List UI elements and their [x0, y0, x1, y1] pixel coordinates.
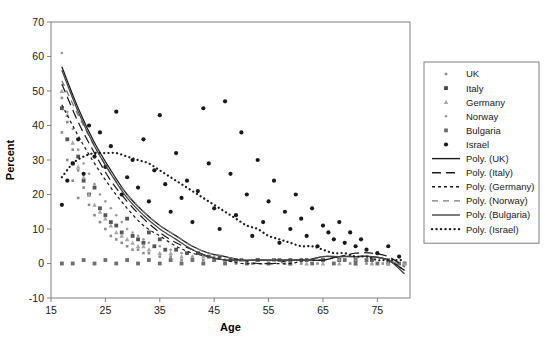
- data-point: [169, 258, 173, 262]
- data-point: [131, 234, 135, 238]
- data-point: [387, 262, 390, 265]
- y-tick-label: 40: [32, 119, 44, 131]
- x-axis-title: Age: [220, 321, 241, 333]
- data-point: [348, 230, 352, 234]
- x-tick-label: 55: [263, 304, 275, 316]
- data-point: [179, 254, 184, 258]
- data-point: [343, 241, 347, 245]
- data-point: [125, 237, 130, 241]
- data-point: [326, 230, 330, 234]
- data-point: [125, 217, 129, 221]
- data-point: [82, 162, 85, 165]
- data-point: [66, 110, 69, 113]
- data-point: [180, 262, 184, 266]
- data-point: [148, 252, 151, 255]
- axis-layer: -1001020304050607015253545556575: [29, 16, 410, 316]
- data-point: [321, 223, 325, 227]
- data-point: [61, 97, 64, 100]
- data-point: [228, 172, 232, 176]
- data-point: [277, 241, 281, 245]
- data-point: [294, 192, 298, 196]
- data-point: [99, 193, 102, 196]
- data-point: [158, 255, 161, 258]
- data-point: [338, 259, 341, 262]
- data-point: [109, 144, 113, 148]
- data-point: [185, 179, 189, 183]
- legend-label: Israel: [466, 139, 489, 150]
- trendline-uk: [62, 67, 405, 271]
- data-point: [218, 227, 222, 231]
- y-tick-label: 10: [32, 223, 44, 235]
- legend-label: Poly. (Israel): [466, 224, 519, 235]
- data-point: [93, 262, 97, 266]
- data-point: [60, 203, 64, 207]
- data-point: [245, 192, 249, 196]
- data-point: [152, 244, 156, 248]
- legend-label: Poly. (Germany): [466, 181, 534, 192]
- series-germany: [60, 89, 407, 266]
- data-point: [445, 73, 448, 76]
- data-point: [299, 217, 303, 221]
- data-point: [110, 207, 113, 210]
- data-point: [88, 204, 91, 207]
- data-point: [349, 262, 352, 265]
- y-tick-label: 50: [32, 85, 44, 97]
- x-tick-label: 45: [208, 304, 220, 316]
- data-point: [125, 175, 129, 179]
- data-point: [223, 262, 227, 266]
- data-point: [137, 248, 140, 251]
- data-point: [354, 244, 358, 248]
- data-point: [174, 248, 178, 252]
- data-point: [382, 262, 385, 265]
- data-point: [169, 210, 173, 214]
- data-point: [266, 199, 270, 203]
- data-point: [103, 258, 107, 262]
- x-tick-label: 65: [317, 304, 329, 316]
- data-point: [305, 234, 309, 238]
- data-point: [71, 179, 74, 182]
- data-point: [77, 197, 80, 200]
- data-point: [93, 183, 96, 186]
- y-tick-label: 70: [32, 16, 44, 28]
- data-point: [158, 113, 162, 117]
- legend-label: UK: [466, 68, 480, 79]
- legend-label: Poly. (Italy): [466, 167, 513, 178]
- data-point: [87, 123, 91, 127]
- data-point: [365, 258, 369, 262]
- data-point: [310, 262, 314, 266]
- data-point: [98, 130, 102, 134]
- data-point: [82, 179, 86, 183]
- data-point: [104, 200, 107, 203]
- legend-label: Poly. (UK): [466, 153, 509, 164]
- data-point: [93, 214, 96, 217]
- data-point: [157, 251, 162, 255]
- data-point: [337, 220, 341, 224]
- data-point: [239, 130, 243, 134]
- data-point: [65, 179, 69, 183]
- data-point: [207, 161, 211, 165]
- data-point: [397, 255, 401, 259]
- trendline-israel: [62, 153, 405, 260]
- data-point: [82, 186, 85, 189]
- data-point: [250, 234, 254, 238]
- data-point: [444, 86, 448, 90]
- data-point: [256, 158, 260, 162]
- x-tick-label: 35: [154, 304, 166, 316]
- data-point: [371, 262, 374, 265]
- data-point: [148, 242, 151, 245]
- data-point: [169, 248, 172, 251]
- series-italy: [60, 106, 406, 265]
- chart-legend: UKItalyGermanyNorwayBulgariaIsraelPoly. …: [424, 62, 539, 243]
- data-point: [70, 140, 75, 144]
- data-point: [114, 230, 119, 234]
- data-point: [316, 262, 319, 265]
- trendline-bulgaria: [62, 70, 405, 274]
- data-point: [131, 248, 134, 251]
- data-point: [354, 262, 358, 266]
- data-point: [163, 182, 167, 186]
- data-point: [120, 242, 123, 245]
- data-point: [212, 206, 216, 210]
- data-point: [386, 244, 390, 248]
- legend-label: Germany: [466, 97, 505, 108]
- data-point: [343, 258, 347, 262]
